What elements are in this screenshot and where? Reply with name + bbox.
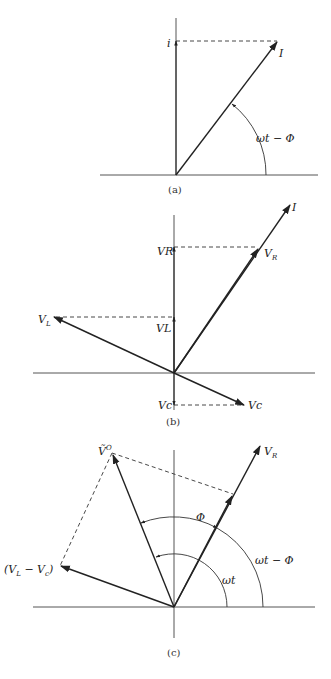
vector-Vc-arrow	[174, 373, 244, 405]
omega-t-arc	[156, 554, 227, 607]
panel-b: I VR VR VL VL Vc Vc (b)	[33, 201, 315, 427]
phi-arc	[141, 517, 217, 528]
label-Vo: ṼO	[98, 444, 112, 458]
label-angle: ωt − Φ	[256, 132, 295, 145]
caption-c: (c)	[167, 647, 181, 658]
label-VR-projection: VR	[157, 245, 173, 258]
vector-VR-arrow	[174, 249, 258, 373]
panel-a: i I ωt − Φ (a)	[100, 18, 318, 195]
label-VL-vector: VL	[38, 313, 51, 328]
label-VL-minus-Vc: (VL − Vc)	[4, 563, 53, 578]
label-VL-projection: VL	[156, 322, 171, 335]
label-VR: VR	[264, 445, 278, 460]
caption-a: (a)	[168, 184, 182, 195]
omega-t-minus-phi-arc	[217, 528, 263, 607]
label-VR-vector: VR	[264, 247, 278, 262]
caption-b: (b)	[166, 416, 180, 427]
vector-VL-minus-Vc-arrow	[61, 566, 174, 607]
phasor-diagram: i I ωt − Φ (a) I VR VR VL VL Vc Vc (b)	[0, 0, 331, 679]
label-I: I	[291, 201, 297, 214]
vo-to-vr-dashed-line	[112, 453, 233, 494]
label-Vc-vector: Vc	[248, 399, 262, 412]
label-phi: Φ	[196, 511, 205, 524]
label-Vc-projection: Vc	[158, 399, 172, 412]
label-omega-t: ωt	[222, 574, 236, 587]
label-i: i	[167, 37, 171, 50]
vo-to-diff-dashed-line	[60, 453, 112, 566]
panel-c: ṼO VR (VL − Vc) Φ ωt ωt − Φ (c)	[4, 444, 315, 658]
label-omega-t-minus-phi: ωt − Φ	[255, 554, 294, 567]
vector-I-arrow	[176, 42, 277, 175]
vector-Vo-arrow	[113, 455, 174, 607]
label-I: I	[278, 47, 284, 60]
